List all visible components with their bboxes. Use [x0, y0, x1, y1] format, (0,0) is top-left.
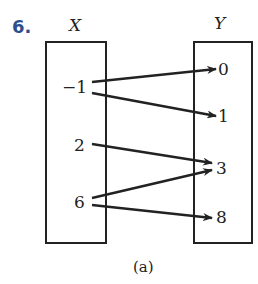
- codomain-element: 8: [216, 207, 227, 227]
- codomain-element: 1: [218, 106, 229, 126]
- domain-element: 6: [74, 192, 85, 212]
- mapping-diagram: [0, 0, 258, 284]
- arrow-neg1-to-1: [92, 93, 216, 116]
- arrow-neg1-to-0: [92, 69, 216, 82]
- codomain-element: 0: [218, 59, 229, 79]
- domain-element: −1: [62, 77, 87, 97]
- codomain-label: Y: [214, 13, 225, 33]
- figure-caption: (a): [133, 258, 154, 276]
- problem-number: 6.: [12, 16, 31, 37]
- codomain-element: 3: [216, 158, 227, 178]
- domain-label: X: [69, 15, 81, 35]
- domain-element: 2: [74, 135, 85, 155]
